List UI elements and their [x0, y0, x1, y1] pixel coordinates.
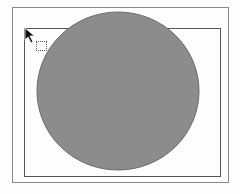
dotted-rectangle-icon: [36, 41, 47, 51]
drawing-canvas[interactable]: [0, 0, 240, 194]
ellipse-shape[interactable]: [37, 12, 199, 170]
